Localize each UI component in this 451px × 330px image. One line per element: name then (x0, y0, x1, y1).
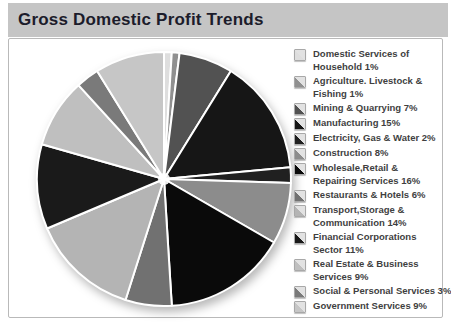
legend-label: Transport,Storage &Communication 14% (313, 204, 406, 229)
legend-swatch-icon (294, 259, 306, 271)
legend-label: Domestic Services ofHousehold 1% (313, 48, 409, 73)
legend: Domestic Services ofHousehold 1%Agricult… (294, 48, 442, 313)
legend-swatch-icon (294, 190, 306, 202)
legend-label: Social & Personal Services 3% (313, 285, 451, 298)
legend-swatch-icon (294, 301, 306, 313)
legend-swatch-icon (294, 148, 306, 160)
legend-item: Real Estate & BusinessServices 9% (294, 258, 442, 283)
legend-item: Manufacturing 15% (294, 117, 442, 130)
legend-swatch-icon (294, 118, 306, 130)
pie-svg (33, 48, 295, 310)
legend-label: Wholesale,Retail &Repairing Services 16% (313, 162, 420, 187)
legend-swatch-icon (294, 133, 306, 145)
legend-label: Manufacturing 15% (313, 117, 400, 130)
legend-item: Mining & Quarrying 7% (294, 102, 442, 115)
legend-item: Construction 8% (294, 147, 442, 160)
chart-content: Domestic Services ofHousehold 1%Agricult… (8, 38, 443, 318)
legend-swatch-icon (294, 232, 306, 244)
legend-label: Restaurants & Hotels 6% (313, 189, 425, 202)
legend-label: Electricity, Gas & Water 2% (313, 132, 436, 145)
legend-swatch-icon (294, 76, 306, 88)
legend-item: Social & Personal Services 3% (294, 285, 442, 298)
legend-swatch-icon (294, 103, 306, 115)
chart-title: Gross Domestic Profit Trends (18, 10, 264, 30)
legend-label: Financial CorporationsSector 11% (313, 231, 416, 256)
legend-swatch-icon (294, 286, 306, 298)
legend-swatch-icon (294, 205, 306, 217)
legend-item: Restaurants & Hotels 6% (294, 189, 442, 202)
legend-label: Government Services 9% (313, 300, 427, 313)
pie-center-highlight (158, 173, 170, 185)
legend-item: Agriculture. Livestock &Fishing 1% (294, 75, 442, 100)
legend-item: Wholesale,Retail &Repairing Services 16% (294, 162, 442, 187)
legend-swatch-icon (294, 49, 306, 61)
legend-item: Financial CorporationsSector 11% (294, 231, 442, 256)
legend-item: Transport,Storage &Communication 14% (294, 204, 442, 229)
legend-item: Domestic Services ofHousehold 1% (294, 48, 442, 73)
legend-label: Agriculture. Livestock &Fishing 1% (313, 75, 422, 100)
legend-label: Mining & Quarrying 7% (313, 102, 418, 115)
chart-title-bar: Gross Domestic Profit Trends (8, 3, 448, 37)
legend-item: Electricity, Gas & Water 2% (294, 132, 442, 145)
legend-label: Real Estate & BusinessServices 9% (313, 258, 419, 283)
legend-swatch-icon (294, 163, 306, 175)
legend-item: Government Services 9% (294, 300, 442, 313)
pie-chart (33, 48, 295, 310)
legend-label: Construction 8% (313, 147, 388, 160)
